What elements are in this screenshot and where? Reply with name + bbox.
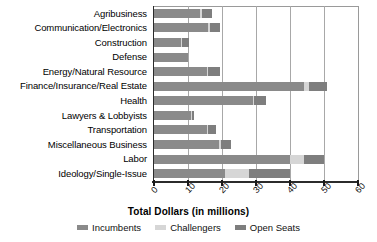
bar-row <box>154 79 358 94</box>
bar-segment-incumbents <box>154 96 253 105</box>
legend-item: Challengers <box>155 222 221 233</box>
stacked-bar <box>154 155 324 164</box>
legend-swatch-icon <box>155 225 166 230</box>
category-label: Miscellaneous Business <box>0 137 151 152</box>
bar-segment-incumbents <box>154 111 191 120</box>
stacked-bar <box>154 82 327 91</box>
stacked-bar <box>154 125 216 134</box>
bar-segment-challengers <box>225 169 249 178</box>
category-label: Finance/Insurance/Real Estate <box>0 79 151 94</box>
bar-row <box>154 50 358 65</box>
bar-row <box>154 137 358 152</box>
bar-segment-incumbents <box>154 9 200 18</box>
chart-legend: IncumbentsChallengersOpen Seats <box>0 222 377 233</box>
legend-item: Incumbents <box>77 222 141 233</box>
stacked-bar <box>154 38 189 47</box>
stacked-bar <box>154 140 231 149</box>
legend-swatch-icon <box>77 225 88 230</box>
stacked-bar <box>154 53 188 62</box>
bar-segment-incumbents <box>154 155 290 164</box>
bar-segment-open-seats <box>208 125 217 134</box>
plot-area <box>153 6 359 181</box>
legend-item: Open Seats <box>235 222 300 233</box>
bar-segment-open-seats <box>254 96 266 105</box>
bar-segment-incumbents <box>154 140 219 149</box>
bar-row <box>154 35 358 50</box>
bar-segment-open-seats <box>304 155 324 164</box>
bar-segment-incumbents <box>154 82 304 91</box>
bar-segment-challengers <box>290 155 304 164</box>
bar-segment-incumbents <box>154 38 181 47</box>
bar-segment-open-seats <box>309 82 328 91</box>
x-axis-tick-label: 0 <box>149 184 160 195</box>
category-label: Lawyers & Lobbyists <box>0 108 151 123</box>
bar-segment-open-seats <box>208 67 220 76</box>
bar-segment-open-seats <box>210 23 220 32</box>
bar-row <box>154 123 358 138</box>
bar-segment-incumbents <box>154 53 188 62</box>
bar-segment-open-seats <box>221 140 231 149</box>
category-label: Health <box>0 93 151 108</box>
stacked-bar <box>154 111 194 120</box>
bar-chart: AgribusinessCommunication/ElectronicsCon… <box>0 0 377 242</box>
bar-series-container <box>154 6 358 181</box>
bar-segment-incumbents <box>154 125 207 134</box>
category-label: Defense <box>0 50 151 65</box>
bar-row <box>154 152 358 167</box>
category-axis: AgribusinessCommunication/ElectronicsCon… <box>0 6 151 181</box>
category-label: Labor <box>0 152 151 167</box>
legend-label: Challengers <box>170 222 221 233</box>
bar-row <box>154 93 358 108</box>
bar-segment-incumbents <box>154 67 207 76</box>
stacked-bar <box>154 169 290 178</box>
stacked-bar <box>154 23 220 32</box>
bar-row <box>154 21 358 36</box>
bar-row <box>154 64 358 79</box>
stacked-bar <box>154 9 212 18</box>
bar-segment-incumbents <box>154 169 225 178</box>
bar-segment-open-seats <box>192 111 194 120</box>
category-label: Agribusiness <box>0 6 151 21</box>
category-label: Transportation <box>0 123 151 138</box>
x-axis-title: Total Dollars (in millions) <box>0 206 377 217</box>
category-label: Construction <box>0 35 151 50</box>
category-label: Energy/Natural Resource <box>0 64 151 79</box>
bar-segment-open-seats <box>249 169 290 178</box>
bar-row <box>154 166 358 181</box>
legend-label: Open Seats <box>250 222 300 233</box>
plot-wrapper: AgribusinessCommunication/ElectronicsCon… <box>0 0 377 186</box>
legend-swatch-icon <box>235 225 246 230</box>
bar-segment-incumbents <box>154 23 208 32</box>
bar-segment-open-seats <box>182 38 189 47</box>
bar-row <box>154 6 358 21</box>
category-label: Communication/Electronics <box>0 21 151 36</box>
bar-row <box>154 108 358 123</box>
bar-segment-open-seats <box>202 9 212 18</box>
category-label: Ideology/Single-Issue <box>0 166 151 181</box>
stacked-bar <box>154 96 266 105</box>
legend-label: Incumbents <box>92 222 141 233</box>
stacked-bar <box>154 67 220 76</box>
